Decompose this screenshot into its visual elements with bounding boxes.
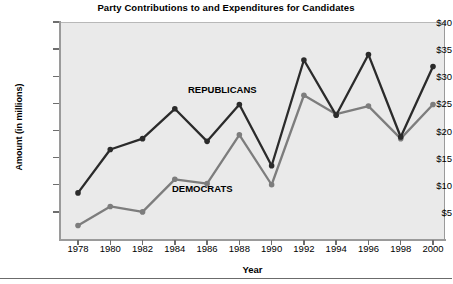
data-point bbox=[75, 190, 81, 196]
data-point bbox=[366, 52, 372, 58]
data-point bbox=[140, 136, 146, 142]
data-point bbox=[237, 132, 243, 138]
data-point bbox=[269, 163, 275, 169]
data-point bbox=[237, 102, 243, 108]
data-point bbox=[398, 134, 404, 140]
series-line-democrats bbox=[78, 95, 433, 225]
data-point bbox=[301, 92, 307, 98]
series-line-republicans bbox=[78, 55, 433, 193]
data-point bbox=[430, 64, 436, 70]
data-point bbox=[172, 106, 178, 112]
data-point bbox=[172, 177, 178, 183]
data-point bbox=[75, 223, 81, 229]
data-point bbox=[204, 139, 210, 145]
data-point bbox=[269, 182, 275, 188]
series-annotation-democrats: DEMOCRATS bbox=[172, 183, 233, 194]
data-point bbox=[140, 209, 146, 215]
data-point bbox=[430, 102, 436, 108]
series-annotation-republicans: REPUBLICANS bbox=[188, 84, 257, 95]
data-point bbox=[107, 147, 113, 153]
data-point bbox=[107, 204, 113, 210]
footer-divider bbox=[0, 278, 452, 279]
data-point bbox=[333, 113, 339, 119]
data-point bbox=[301, 57, 307, 63]
data-point bbox=[366, 103, 372, 109]
